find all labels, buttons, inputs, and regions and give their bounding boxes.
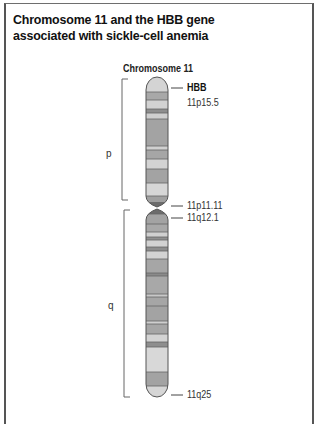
q-arm-label: q xyxy=(108,300,114,311)
marker-hbb: HBB xyxy=(187,82,207,93)
marker-11p11-11: 11p11.11 xyxy=(187,200,223,211)
p-arm-label: p xyxy=(106,148,112,159)
q-arm-bands xyxy=(140,207,174,400)
marker-lines xyxy=(171,88,183,395)
marker-11q12-1: 11q12.1 xyxy=(187,212,219,223)
marker-11p15-5: 11p15.5 xyxy=(187,97,219,108)
p-arm-bands xyxy=(140,75,174,208)
marker-11q25: 11q25 xyxy=(187,389,211,400)
p-arm-bracket xyxy=(122,79,128,200)
q-arm-bracket xyxy=(124,210,130,397)
